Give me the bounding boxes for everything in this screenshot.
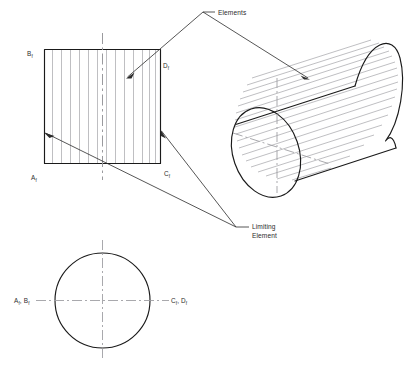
pictorial-cylinder-group bbox=[220, 40, 403, 207]
cylinder-element-lines bbox=[235, 40, 398, 180]
label-c-f: Cf bbox=[164, 170, 171, 179]
front-view-element-lines bbox=[53, 50, 156, 163]
label-a-f-b-f: Af, Bf bbox=[14, 297, 30, 306]
top-view-group bbox=[36, 240, 169, 361]
label-limiting-element-line2: Element bbox=[252, 232, 277, 239]
label-b-f: Bf bbox=[27, 50, 33, 59]
limiting-element-leader-group bbox=[44, 130, 249, 228]
technical-drawing-page: Elements Limiting Element Bf Af Df Cf Af… bbox=[0, 0, 409, 380]
limiting-element-arrowhead-left bbox=[44, 133, 55, 139]
drawing-canvas: Elements Limiting Element Bf Af Df Cf Af… bbox=[0, 0, 409, 380]
label-a-f: Af bbox=[31, 174, 37, 183]
label-elements: Elements bbox=[218, 9, 247, 16]
cylinder-body-outline-lower bbox=[295, 148, 396, 181]
cylinder-body-outline bbox=[237, 86, 356, 124]
label-limiting-element-line1: Limiting bbox=[252, 223, 276, 231]
elements-leader-group bbox=[126, 12, 310, 80]
label-c-f-d-f: Cf, Df bbox=[171, 297, 188, 306]
limiting-element-arrowhead-right bbox=[161, 130, 167, 139]
top-view-labels: Af, Bf Cf, Df bbox=[14, 297, 188, 306]
front-view-group bbox=[45, 33, 161, 180]
cylinder-far-ellipse bbox=[355, 43, 403, 148]
limiting-element-leader-right-edge bbox=[162, 131, 237, 227]
label-d-f: Df bbox=[163, 62, 170, 71]
limiting-element-leader-left-edge bbox=[46, 133, 237, 227]
elements-leader-to-cylinder bbox=[203, 12, 308, 78]
